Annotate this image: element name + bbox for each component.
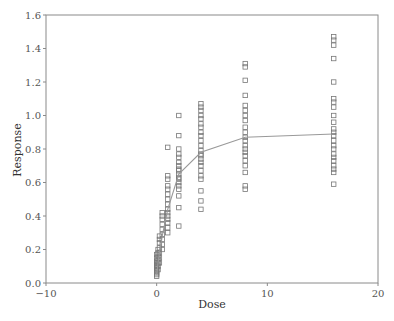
y-axis: 0.00.20.40.60.81.01.21.41.6 (25, 10, 46, 289)
data-point-marker (199, 143, 203, 147)
data-point-marker (166, 197, 170, 201)
x-tick-label: 20 (372, 288, 385, 299)
fitted-line (157, 134, 334, 275)
data-point-marker (332, 138, 336, 142)
data-point-marker (166, 226, 170, 230)
data-point-marker (332, 80, 336, 84)
data-point-marker (166, 145, 170, 149)
data-point-marker (243, 93, 247, 97)
data-point-marker (243, 108, 247, 112)
y-tick-label: 0.4 (25, 211, 41, 222)
data-point-marker (332, 105, 336, 109)
y-tick-label: 0.8 (25, 144, 41, 155)
data-point-marker (199, 199, 203, 203)
data-point-marker (177, 133, 181, 137)
data-point-marker (177, 147, 181, 151)
y-tick-label: 0.2 (25, 244, 41, 255)
data-point-marker (177, 205, 181, 209)
data-point-marker (243, 78, 247, 82)
data-markers (154, 35, 335, 279)
scatter-chart: 0.00.20.40.60.81.01.21.41.6 −1001020 Dos… (0, 0, 394, 321)
data-point-marker (243, 164, 247, 168)
data-point-marker (332, 120, 336, 124)
data-point-marker (332, 56, 336, 60)
data-point-marker (243, 103, 247, 107)
y-tick-label: 0.6 (25, 177, 41, 188)
data-point-marker (199, 189, 203, 193)
data-point-marker (332, 43, 336, 47)
data-point-marker (332, 113, 336, 117)
data-point-marker (243, 170, 247, 174)
data-point-marker (166, 231, 170, 235)
x-tick-label: 10 (261, 288, 274, 299)
y-tick-label: 1.6 (25, 10, 41, 21)
x-axis: −1001020 (35, 283, 384, 299)
data-point-marker (199, 207, 203, 211)
y-axis-title: Response (11, 123, 24, 176)
data-point-marker (160, 222, 164, 226)
data-point-marker (243, 125, 247, 129)
data-point-marker (166, 192, 170, 196)
data-point-marker (243, 130, 247, 134)
y-tick-label: 1.4 (25, 43, 41, 54)
data-point-marker (199, 138, 203, 142)
data-point-marker (332, 182, 336, 186)
data-point-marker (199, 169, 203, 173)
y-tick-label: 0.0 (25, 278, 41, 289)
data-point-marker (177, 224, 181, 228)
data-point-marker (177, 194, 181, 198)
data-point-marker (243, 118, 247, 122)
x-tick-label: 0 (153, 288, 159, 299)
data-point-marker (177, 113, 181, 117)
x-axis-title: Dose (198, 298, 226, 311)
data-point-marker (243, 113, 247, 117)
x-tick-label: −10 (35, 288, 56, 299)
data-point-marker (243, 159, 247, 163)
y-tick-label: 1.0 (25, 110, 41, 121)
y-tick-label: 1.2 (25, 77, 41, 88)
